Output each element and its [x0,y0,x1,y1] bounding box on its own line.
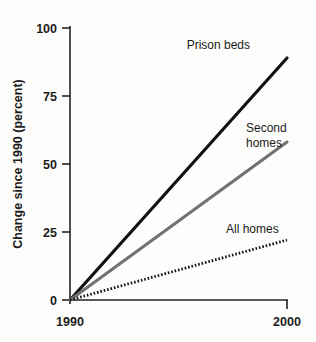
y-tick-label-100: 100 [36,22,57,36]
y-tick-label-75: 75 [43,90,57,104]
series-label-prison-beds: Prison beds [187,38,250,52]
line-chart: 100 75 50 25 0 1990 2000 Change since 19… [0,0,316,342]
y-tick-label-50: 50 [43,158,57,172]
series-label-second-homes-line2: homes [246,136,282,150]
x-tick-label-1990: 1990 [56,315,84,329]
series-label-all-homes: All homes [226,222,279,236]
y-tick-label-25: 25 [43,226,57,240]
x-tick-label-2000: 2000 [273,315,301,329]
y-tick-label-0: 0 [50,294,57,308]
y-axis-title: Change since 1990 (percent) [11,79,25,249]
series-label-second-homes-line1: Second [246,121,287,135]
chart-container: 100 75 50 25 0 1990 2000 Change since 19… [0,0,316,342]
